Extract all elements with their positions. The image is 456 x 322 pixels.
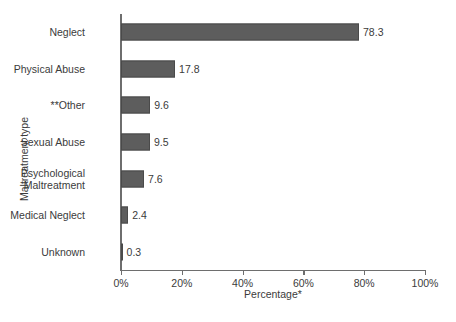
bar bbox=[121, 60, 175, 77]
x-tick bbox=[182, 270, 183, 275]
category-label: **Other bbox=[0, 99, 85, 111]
bar bbox=[121, 24, 359, 41]
bar-chart: Maltreatment type 78.3Neglect17.8Physica… bbox=[0, 0, 456, 322]
x-tick bbox=[121, 270, 122, 275]
bar bbox=[121, 97, 150, 114]
bar-value-label: 78.3 bbox=[359, 26, 383, 38]
bar-row: 7.6Psychological Maltreatment bbox=[121, 160, 425, 197]
bar-row: 9.6**Other bbox=[121, 87, 425, 124]
x-tick bbox=[243, 270, 244, 275]
bar bbox=[121, 133, 150, 150]
bar-row: 9.5Sexual Abuse bbox=[121, 124, 425, 161]
x-axis-title: Percentage* bbox=[121, 288, 425, 300]
bar-row: 78.3Neglect bbox=[121, 14, 425, 51]
bar-row: 0.3Unknown bbox=[121, 233, 425, 270]
x-axis-line bbox=[120, 270, 425, 271]
category-label: Psychological Maltreatment bbox=[0, 167, 85, 191]
bar-value-label: 7.6 bbox=[144, 173, 163, 185]
bar bbox=[121, 207, 128, 224]
category-label: Physical Abuse bbox=[0, 63, 85, 75]
bar-value-label: 2.4 bbox=[128, 209, 147, 221]
plot-area: 78.3Neglect17.8Physical Abuse9.6**Other9… bbox=[121, 14, 425, 270]
category-label: Medical Neglect bbox=[0, 209, 85, 221]
x-tick bbox=[364, 270, 365, 275]
bar-value-label: 17.8 bbox=[175, 63, 199, 75]
bar-row: 17.8Physical Abuse bbox=[121, 51, 425, 88]
x-tick bbox=[425, 270, 426, 275]
category-label: Unknown bbox=[0, 246, 85, 258]
bar-row: 2.4Medical Neglect bbox=[121, 197, 425, 234]
bar-value-label: 9.5 bbox=[150, 136, 169, 148]
bar bbox=[121, 170, 144, 187]
bar-value-label: 0.3 bbox=[123, 246, 142, 258]
bar-value-label: 9.6 bbox=[150, 99, 169, 111]
category-label: Neglect bbox=[0, 26, 85, 38]
category-label: Sexual Abuse bbox=[0, 136, 85, 148]
x-tick bbox=[303, 270, 304, 275]
